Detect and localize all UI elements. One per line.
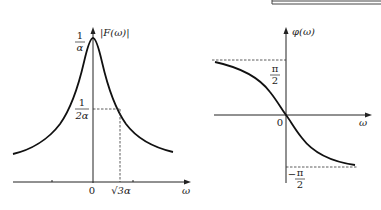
top-box-edge (272, 0, 381, 4)
half-amplitude-label: 1 2α (74, 97, 89, 121)
sqrt3a-label: √3α (111, 185, 131, 196)
lower-pi-half-label: − π 2 (288, 167, 305, 190)
svg-text:α: α (77, 42, 84, 53)
origin-label: 0 (277, 117, 283, 128)
y-axis-arrow-icon (91, 27, 96, 34)
svg-text:2: 2 (297, 179, 303, 190)
amplitude-plot: 1 α |F(ω)| 1 2α 0 √3α ω (13, 27, 191, 196)
svg-text:π: π (297, 167, 304, 178)
omega-axis-label: ω (182, 185, 190, 196)
phase-plot: φ(ω) π 2 0 ω − π 2 (212, 26, 372, 190)
y-axis-arrow-icon (284, 27, 289, 34)
amplitude-axis-label: |F(ω)| (100, 27, 130, 39)
phase-curve (215, 62, 355, 165)
phase-axis-label: φ(ω) (292, 26, 315, 37)
origin-label: 0 (89, 185, 95, 196)
peak-label: 1 α (75, 30, 85, 53)
x-axis-arrow-icon (184, 180, 191, 185)
svg-text:2: 2 (272, 75, 278, 86)
svg-text:1: 1 (77, 30, 83, 41)
svg-text:2α: 2α (74, 110, 88, 121)
svg-text:−: − (288, 169, 296, 180)
omega-axis-label: ω (359, 117, 367, 128)
figure-canvas: 1 α |F(ω)| 1 2α 0 √3α ω φ(ω) π 2 (0, 0, 381, 210)
upper-pi-half-label: π 2 (270, 63, 280, 86)
svg-text:π: π (272, 63, 279, 74)
svg-text:1: 1 (79, 97, 85, 108)
